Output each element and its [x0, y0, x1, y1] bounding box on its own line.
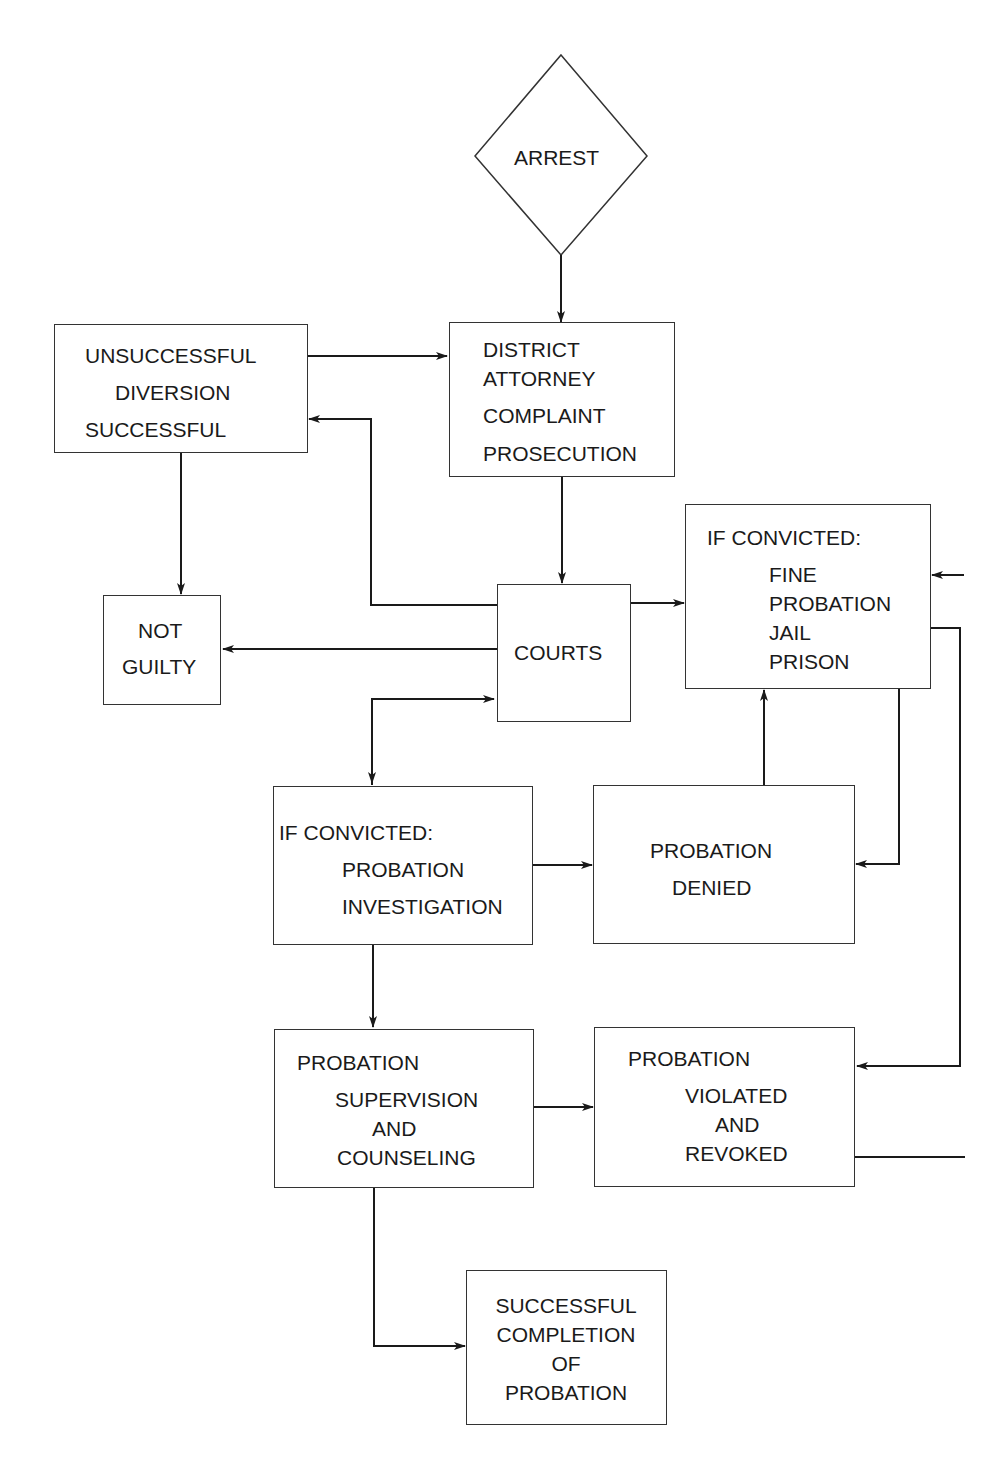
node-probation-denied: PROBATION DENIED [593, 785, 855, 944]
node-text: AND [372, 1118, 416, 1139]
node-text: DENIED [672, 877, 751, 898]
node-text: COUNSELING [337, 1147, 476, 1168]
node-text: DIVERSION [115, 382, 231, 403]
node-sentence: IF CONVICTED: FINE PROBATION JAIL PRISON [685, 504, 931, 689]
edge-sentence-to-revoked [857, 628, 960, 1066]
node-text: NOT [138, 620, 182, 641]
edge-investigation-to-courts [372, 699, 494, 785]
connector-layer [0, 0, 1006, 1464]
node-text: PRISON [769, 651, 850, 672]
node-text: PROBATION [297, 1052, 419, 1073]
node-text: REVOKED [685, 1143, 788, 1164]
node-text: OF [467, 1353, 665, 1374]
node-text: PROBATION [342, 859, 464, 880]
node-text: VIOLATED [685, 1085, 787, 1106]
node-text: SUCCESSFUL [85, 419, 226, 440]
node-text: PROBATION [628, 1048, 750, 1069]
node-text: AND [715, 1114, 759, 1135]
edge-sentence-to-denied [856, 687, 899, 864]
node-diversion: UNSUCCESSFUL DIVERSION SUCCESSFUL [54, 324, 308, 453]
edge-supervision-to-completion [374, 1187, 465, 1346]
node-arrest-label: ARREST [514, 146, 599, 170]
node-probation-supervision: PROBATION SUPERVISION AND COUNSELING [274, 1029, 534, 1188]
node-text: IF CONVICTED: [707, 527, 861, 548]
node-text: IF CONVICTED: [279, 822, 433, 843]
node-not-guilty: NOT GUILTY [103, 595, 221, 705]
node-text: PROSECUTION [483, 443, 637, 464]
node-text: UNSUCCESSFUL [85, 345, 257, 366]
node-text: COMPLAINT [483, 405, 606, 426]
node-courts: COURTS [497, 584, 631, 722]
node-text: SUPERVISION [335, 1089, 478, 1110]
node-text: PROBATION [467, 1382, 665, 1403]
node-probation-investigation: IF CONVICTED: PROBATION INVESTIGATION [273, 786, 533, 945]
node-text: SUCCESSFUL [467, 1295, 665, 1316]
node-text: JAIL [769, 622, 811, 643]
node-text: COURTS [514, 642, 602, 663]
node-text: COMPLETION [467, 1324, 665, 1345]
node-text: GUILTY [122, 656, 196, 677]
node-district-attorney: DISTRICT ATTORNEY COMPLAINT PROSECUTION [449, 322, 675, 477]
node-successful-completion: SUCCESSFUL COMPLETION OF PROBATION [466, 1270, 667, 1425]
node-text: FINE [769, 564, 817, 585]
node-text: DISTRICT [483, 339, 580, 360]
node-text: ATTORNEY [483, 368, 595, 389]
node-text: PROBATION [769, 593, 891, 614]
node-text: PROBATION [650, 840, 772, 861]
node-probation-revoked: PROBATION VIOLATED AND REVOKED [594, 1027, 855, 1187]
node-text: INVESTIGATION [342, 896, 503, 917]
